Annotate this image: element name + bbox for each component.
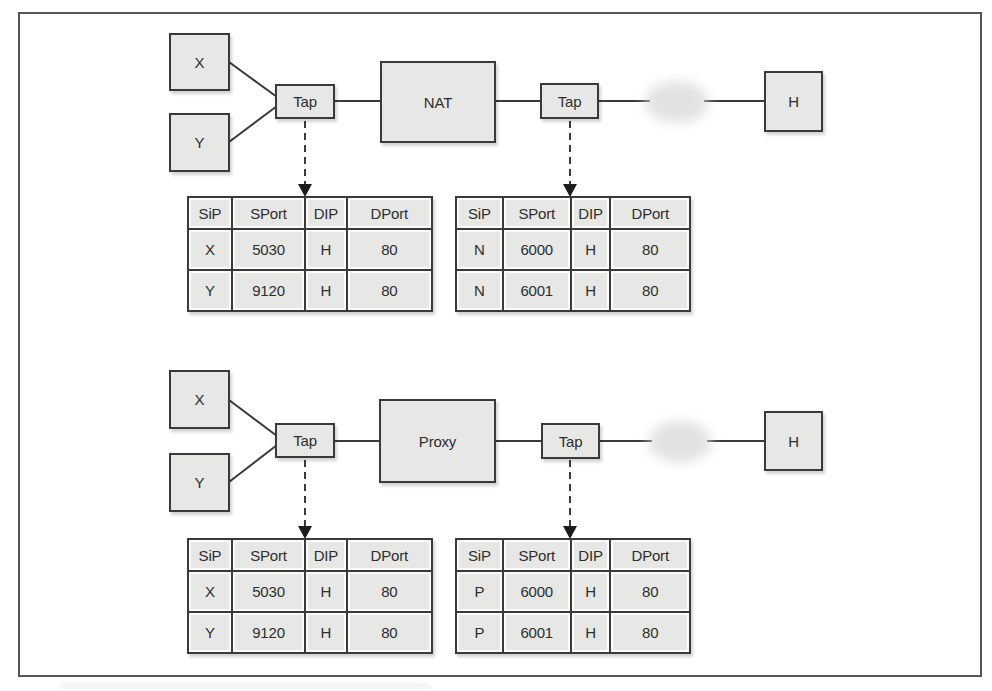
table-row: P6001H80 [456, 612, 690, 653]
table-row: Y9120H80 [188, 612, 432, 653]
tap-left-box: Tap [275, 84, 335, 119]
tap-right-box: Tap [540, 83, 599, 119]
table-header-cell: SPort [232, 539, 305, 571]
table-cell: H [305, 612, 346, 653]
table-header-cell: DIP [305, 539, 346, 571]
table-header-row: SiPSPortDIPDPort [188, 197, 432, 229]
tap-right-box: Tap [541, 423, 600, 459]
table-cell: H [571, 270, 611, 311]
nat-box: NAT [380, 61, 496, 143]
table-cell: 80 [610, 270, 690, 311]
table-header-cell: SiP [188, 539, 232, 571]
table-cell: 5030 [232, 229, 305, 270]
table-header-row: SiPSPortDIPDPort [456, 197, 690, 229]
table-cell: 80 [610, 571, 690, 612]
table-cell: Y [188, 270, 232, 311]
table-header-row: SiPSPortDIPDPort [188, 539, 432, 571]
table-header-cell: SPort [503, 197, 571, 229]
host-h-box: H [764, 71, 823, 132]
table-header-cell: DPort [610, 197, 690, 229]
table-cell: 80 [347, 612, 432, 653]
host-y-box: Y [169, 453, 230, 512]
nat-right-capture-table: SiPSPortDIPDPortN6000H80N6001H80 [455, 196, 691, 312]
table-cell: N [456, 229, 503, 270]
network-cloud [648, 421, 712, 463]
host-y-box: Y [169, 113, 230, 172]
proxy-left-capture-table: SiPSPortDIPDPortX5030H80Y9120H80 [187, 538, 433, 654]
table-cell: 6001 [503, 270, 571, 311]
table-cell: 6000 [503, 571, 571, 612]
table-cell: H [571, 612, 611, 653]
nat-diagram-wires [229, 62, 765, 184]
host-h-box: H [764, 411, 823, 471]
host-x-box: X [169, 33, 230, 91]
host-x-box: X [169, 370, 230, 429]
table-cell: X [188, 571, 232, 612]
proxy-diagram-wires [229, 400, 765, 526]
network-cloud [645, 81, 709, 123]
table-cell: 80 [347, 571, 432, 612]
table-cell: H [305, 229, 346, 270]
table-header-cell: DIP [571, 197, 611, 229]
table-header-cell: SPort [232, 197, 305, 229]
nat-left-capture-table: SiPSPortDIPDPortX5030H80Y9120H80 [187, 196, 433, 312]
table-cell: 6000 [503, 229, 571, 270]
table-header-cell: DPort [347, 539, 432, 571]
table-header-cell: SiP [188, 197, 232, 229]
proxy-box: Proxy [379, 399, 496, 483]
table-cell: 80 [610, 612, 690, 653]
table-header-row: SiPSPortDIPDPort [456, 539, 690, 571]
table-cell: 9120 [232, 270, 305, 311]
scanned-book-figure: { "figure": { "frame_color": "#565656", … [0, 0, 992, 691]
table-header-cell: DPort [610, 539, 690, 571]
table-row: X5030H80 [188, 571, 432, 612]
table-header-cell: SiP [456, 197, 503, 229]
table-cell: P [456, 571, 503, 612]
table-header-cell: SPort [503, 539, 571, 571]
table-cell: H [571, 571, 611, 612]
table-cell: 6001 [503, 612, 571, 653]
table-header-cell: DPort [347, 197, 432, 229]
table-header-cell: DIP [305, 197, 346, 229]
table-cell: Y [188, 612, 232, 653]
table-cell: 80 [610, 229, 690, 270]
tap-left-box: Tap [275, 423, 335, 458]
table-cell: H [571, 229, 611, 270]
table-cell: N [456, 270, 503, 311]
table-cell: 5030 [232, 571, 305, 612]
proxy-right-capture-table: SiPSPortDIPDPortP6000H80P6001H80 [455, 538, 691, 654]
table-cell: H [305, 571, 346, 612]
table-header-cell: SiP [456, 539, 503, 571]
table-cell: 9120 [232, 612, 305, 653]
table-cell: H [305, 270, 346, 311]
table-cell: 80 [347, 229, 432, 270]
table-row: N6001H80 [456, 270, 690, 311]
table-cell: X [188, 229, 232, 270]
table-row: X5030H80 [188, 229, 432, 270]
cutoff-caption-ghost [60, 683, 430, 689]
table-row: P6000H80 [456, 571, 690, 612]
table-header-cell: DIP [571, 539, 611, 571]
table-cell: P [456, 612, 503, 653]
table-row: Y9120H80 [188, 270, 432, 311]
table-row: N6000H80 [456, 229, 690, 270]
table-cell: 80 [347, 270, 432, 311]
